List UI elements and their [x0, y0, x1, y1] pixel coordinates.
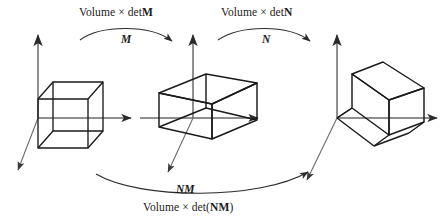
cube-edge-tr: [88, 82, 103, 99]
cube-edge-bl: [38, 131, 53, 148]
arc-nm: [96, 172, 308, 193]
label-volume-det-n: Volume × detN: [221, 7, 292, 19]
matrix-symbol-m: M: [142, 6, 153, 18]
label-arc-nm: NM: [176, 184, 195, 196]
axis-z-left: [18, 118, 38, 170]
box-nm-edge-bottom-left: [337, 118, 374, 146]
axis-z-center: [168, 118, 193, 172]
unit-cube: [38, 82, 103, 148]
box-nm-left-face: [352, 74, 389, 135]
label-volume-det-m: Volume × detM: [79, 7, 153, 19]
times-symbol-m: ×: [118, 6, 125, 18]
cube-front-face: [38, 99, 88, 148]
axis-z-right: [307, 118, 337, 180]
transformed-box-nm: [337, 62, 424, 146]
matrix-symbol-n: N: [284, 6, 292, 18]
times-symbol-nm: ×: [182, 201, 189, 213]
label-arc-n: N: [262, 34, 270, 46]
cube-edge-br: [88, 131, 103, 148]
figure-canvas: Volume × detM Volume × detN M N NM Volum…: [0, 0, 446, 219]
transformed-box-m: [159, 74, 257, 139]
box-nm-edge-bottom-far: [374, 133, 409, 146]
axes-left: [18, 35, 131, 170]
cube-edge-tl: [38, 82, 53, 99]
box-m-top-face: [159, 74, 257, 104]
label-arc-m: M: [121, 34, 131, 46]
cube-back-face: [53, 82, 103, 131]
transformation-diagram: [0, 0, 446, 219]
matrix-symbol-nm: NM: [210, 201, 229, 213]
times-symbol-n: ×: [260, 6, 267, 18]
label-volume-det-nm: Volume × det(NM): [143, 202, 233, 214]
axes-center: [140, 35, 258, 172]
box-nm-edge-dup: [337, 108, 352, 118]
box-nm-right-face: [389, 88, 424, 135]
axes-right: [307, 35, 437, 180]
